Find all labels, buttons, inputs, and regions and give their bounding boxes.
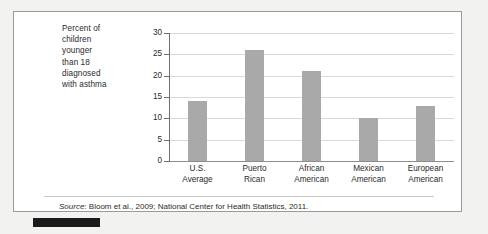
y-tick-label-30: 30 [126, 29, 162, 37]
bar-mexican-american [359, 118, 378, 161]
x-axis-tick-labels: U.S.AveragePuertoRicanAfricanAmericanMex… [169, 164, 454, 194]
y-tick-label-0: 0 [126, 157, 162, 165]
source-word: Source [59, 202, 84, 211]
y-tick-label-5: 5 [126, 136, 162, 144]
gridline-0 [169, 161, 454, 162]
y-tick-label-25: 25 [126, 50, 162, 58]
x-tick-label-african-american: AfricanAmerican [280, 164, 344, 185]
x-tick-label-mexican-american: MexicanAmerican [337, 164, 401, 185]
source-note: Source: Bloom et al., 2009; National Cen… [59, 202, 308, 212]
y-tick-label-20: 20 [126, 72, 162, 80]
y-axis-tick-labels: 051015202530 [122, 12, 162, 211]
bottom-marker-bar [33, 218, 100, 227]
bar-puerto-rican [245, 50, 264, 161]
x-tick-label-european-american: EuropeanAmerican [394, 164, 458, 185]
source-divider [44, 196, 434, 197]
figure-frame: Percent ofchildrenyoungerthan 18diagnose… [13, 11, 462, 212]
bar-chart: Percent ofchildrenyoungerthan 18diagnose… [14, 12, 461, 211]
y-tick-label-10: 10 [126, 114, 162, 122]
y-tick-label-15: 15 [126, 93, 162, 101]
bar-u-s-average [188, 101, 207, 161]
bar-european-american [416, 106, 435, 161]
x-tick-label-puerto-rican: PuertoRican [223, 164, 287, 185]
plot-area [169, 33, 454, 161]
source-citation: Bloom et al., 2009; National Center for … [89, 202, 309, 211]
x-tick-label-u-s-average: U.S.Average [166, 164, 230, 185]
bar-african-american [302, 71, 321, 161]
